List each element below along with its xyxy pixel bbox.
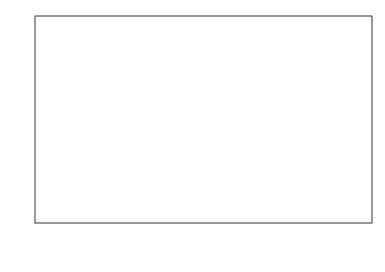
plot-frame bbox=[35, 16, 372, 223]
chart bbox=[0, 0, 385, 272]
